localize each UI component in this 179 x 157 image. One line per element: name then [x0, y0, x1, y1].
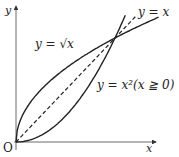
- function-graph: y x O y = √x y = x y = x²(x ≧ 0): [0, 0, 179, 157]
- label-square: y = x²(x ≧ 0): [97, 78, 174, 92]
- label-sqrt: y = √x: [35, 37, 74, 51]
- origin-label: O: [3, 141, 13, 155]
- y-axis-label: y: [5, 4, 11, 17]
- label-identity: y = x: [138, 5, 169, 19]
- x-axis-label: x: [146, 142, 152, 155]
